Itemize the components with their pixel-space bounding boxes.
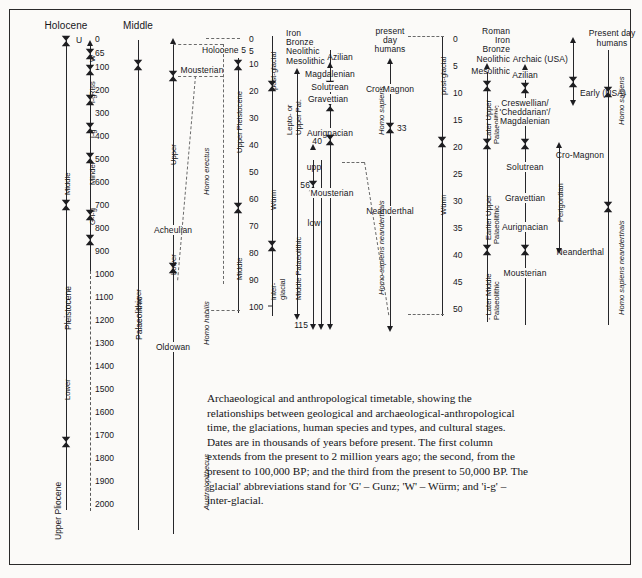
panel3-aurignacian-label: Aurignacian — [500, 222, 550, 232]
caption-line: time, the glaciations, human species and… — [207, 420, 607, 435]
industry-boundary-marker — [521, 245, 530, 256]
panel3-later-middle-2: Palaeolithic — [492, 281, 501, 320]
panel3-present-day-2: humans — [597, 38, 628, 48]
tick-label: 35 — [453, 223, 462, 233]
tick-label: 15 — [453, 115, 462, 125]
panel3-americas-axis — [573, 43, 574, 100]
tick-label: 1300 — [95, 338, 114, 348]
panel2-neolithic-label: Neolithic — [286, 46, 320, 56]
tick-label: 10 — [453, 88, 462, 98]
panel2-azilian-label: Azilian — [327, 52, 353, 62]
panel3-azilian-label: Azilian — [510, 70, 540, 80]
panel3-mesolithic-label: Mesolithic — [471, 66, 510, 76]
caption-line: Dates are in thousands of years before p… — [207, 435, 607, 450]
tick-label: 60 — [249, 194, 258, 204]
hominid-boundary-marker — [386, 123, 395, 134]
glaciation-marker — [86, 210, 95, 221]
caption-line: present to 100,000 BP; and the third fro… — [207, 464, 607, 479]
arrow-down-icon — [318, 324, 324, 330]
panel3-cro-magnon-label: Cro-Magnon — [556, 150, 604, 160]
glaciation-marker — [268, 241, 277, 252]
americas-boundary-marker — [569, 77, 578, 88]
panel1-palaeo-middle-label: Middle — [123, 20, 153, 31]
tick-label: 10 — [249, 59, 258, 69]
caption-line: Archaeological and anthropological timet… — [207, 391, 607, 406]
industry-boundary-marker — [521, 139, 530, 150]
cultural-boundary-marker — [483, 245, 492, 256]
glaciation-marker — [86, 235, 95, 246]
caption-line: 'glacial' abbreviations stand for 'G' – … — [207, 479, 607, 494]
panel1-palaeolithic-axis — [138, 40, 139, 530]
panel1-industry-upper-label: Upper — [169, 144, 178, 165]
tick-label: 25 — [453, 169, 462, 179]
tick-label: 1500 — [95, 384, 114, 394]
glaciation-marker — [86, 65, 95, 76]
panel2-upp-label: upp — [307, 162, 321, 172]
panel1-epoch-middle-label: Middle — [63, 173, 72, 195]
panel2-gravettian-label: Gravettian — [307, 94, 349, 104]
panel2-mesolithic-label: Mesolithic — [286, 56, 325, 66]
tick-label: 1700 — [95, 430, 114, 440]
glaciation-marker — [86, 95, 95, 106]
arrow-up-icon — [310, 144, 316, 150]
arrow-up-icon — [570, 37, 576, 43]
epoch-boundary-marker — [62, 200, 71, 211]
panel2-industry-axis-3 — [321, 160, 322, 325]
tick-label: 400 — [95, 131, 109, 141]
tick-label: 1900 — [95, 476, 114, 486]
tick-label: 100 — [95, 62, 109, 72]
panel2-hominid-axis — [390, 64, 391, 326]
panel2-middle-palaeolithic-label: Middle Palaeolithic — [294, 237, 303, 300]
cultural-boundary-marker — [483, 81, 492, 92]
tick-label: 600 — [95, 177, 109, 187]
tick-label: 200 — [95, 85, 109, 95]
tick-label: 30 — [453, 196, 462, 206]
palaeolithic-boundary-marker — [134, 60, 143, 71]
panel3-neolithic-label: Neolithic — [477, 54, 511, 64]
tick-label: 40 — [453, 250, 462, 260]
tick-label: 30 — [249, 113, 258, 123]
tick-label: 50 — [249, 167, 258, 177]
panel2-homo-sapiens-label: Homo sapiens — [377, 86, 386, 135]
panel2-present-day-3: humans — [375, 44, 406, 54]
arrow-up-icon — [556, 142, 562, 148]
glaciation-marker — [268, 81, 277, 92]
caption-line: extends from the present to 2 million ye… — [207, 449, 607, 464]
arrow-up-icon — [387, 58, 393, 64]
arrow-down-icon — [387, 326, 393, 332]
panel3-perigordian-label: Perigordian — [556, 183, 565, 222]
epoch-boundary-marker — [62, 36, 71, 47]
panel3-bottom-connector — [408, 314, 444, 315]
tick-label: 1600 — [95, 407, 114, 417]
panel3-wurm-label: Würm — [439, 195, 448, 215]
caption-line: inter-glacial. — [207, 493, 607, 508]
arrow-down-icon — [327, 324, 333, 330]
panel2-lepto-label-1: Lepto- or — [285, 105, 294, 135]
industry-boundary-marker — [169, 71, 178, 82]
tick-label: 0 — [95, 34, 100, 44]
panel2-epoch-middle-label: Middle — [235, 258, 244, 280]
tick-label: 20 — [249, 86, 258, 96]
timetable-figure-page: 0 65 100 200 300 400 500 600 700 800 900… — [0, 0, 642, 578]
panel1-holocene-label: Holocene — [44, 20, 87, 31]
panel2-lepto-label-2: Upper Pal. — [294, 99, 303, 135]
panel1-oldowan-label: Oldowan — [154, 342, 192, 352]
glaciation-marker — [86, 49, 95, 60]
homo-erectus-connector-2 — [178, 76, 223, 77]
tick-label: 300 — [95, 108, 109, 118]
panel3-solutrean-label: Solutrean — [504, 162, 545, 172]
panel3-post-glacial-label: post-glacial — [439, 57, 448, 95]
hominid-boundary-marker — [604, 202, 613, 213]
panel2-date-33-label: 33 — [397, 123, 407, 133]
panel1-palaeo-lower-label: Lower — [134, 289, 143, 310]
tick-label: 500 — [95, 154, 109, 164]
tick-label: 45 — [453, 277, 462, 287]
industry-boundary-marker — [521, 83, 530, 94]
panel3-mousterian-label: Mousterian — [501, 268, 548, 278]
panel2-mousterian-label: Mousterian — [309, 188, 354, 198]
arrow-down-icon — [570, 100, 576, 106]
tick-label: 20 — [453, 142, 462, 152]
tick-label: 0 — [249, 34, 254, 44]
panel1-upper-pliocene-label: Upper Pliocene — [53, 482, 63, 540]
tick-label: 5 — [453, 61, 458, 71]
